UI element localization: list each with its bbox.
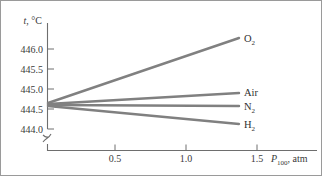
y-tick-label-446-0: 446.0: [21, 44, 44, 55]
series-label-h2-subscript: 2: [252, 125, 256, 133]
chart-figure: 446.0 445.5 445.0 444.5 444.0 t, °C 0.5 …: [0, 0, 322, 176]
y-tick-label-444-5: 444.5: [21, 104, 44, 115]
x-axis-title-subscript: 100: [277, 159, 288, 167]
chart-plot-area: 446.0 445.5 445.0 444.5 444.0 t, °C 0.5 …: [1, 1, 322, 176]
series-label-n2: N2: [244, 101, 256, 115]
x-axis-title-symbol: P: [270, 153, 277, 164]
y-tick-label-444-0: 444.0: [21, 124, 44, 135]
series-label-n2-subscript: 2: [252, 107, 256, 115]
series-line-air: [48, 93, 239, 104]
x-axis-title: P100, atm: [270, 153, 308, 167]
x-tick-label-0-5: 0.5: [109, 153, 122, 164]
x-axis-title-units: , atm: [288, 153, 308, 164]
series-label-h2: H2: [244, 119, 256, 133]
x-tick-label-1-0: 1.0: [180, 153, 193, 164]
series-label-o2-subscript: 2: [252, 39, 256, 47]
axis-break-icon: [43, 134, 51, 142]
y-axis-title: t, °C: [24, 15, 43, 26]
series-label-o2: O2: [244, 33, 256, 47]
series-label-air-text: Air: [244, 87, 259, 98]
y-tick-label-445-5: 445.5: [21, 64, 44, 75]
y-axis-title-units: , °C: [26, 15, 42, 26]
y-tick-label-445-0: 445.0: [21, 84, 44, 95]
series-label-air: Air: [244, 87, 259, 98]
series-line-n2: [48, 105, 239, 106]
series-line-h2: [48, 106, 239, 124]
series-line-o2: [48, 38, 239, 103]
x-tick-label-1-5: 1.5: [251, 153, 264, 164]
